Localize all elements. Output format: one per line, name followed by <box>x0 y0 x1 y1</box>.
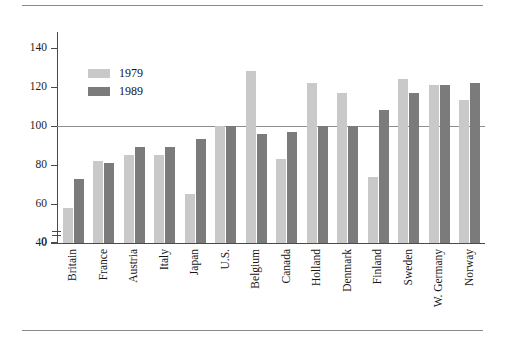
x-label-text: W. Germany <box>434 249 446 307</box>
x-label-text: Austria <box>129 249 141 283</box>
bar-sweden-1989 <box>409 93 419 243</box>
bar-norway-1989 <box>470 83 480 243</box>
x-label-finland: Finland <box>367 247 389 319</box>
bar-austria-1989 <box>135 147 145 243</box>
top-rule <box>22 5 483 6</box>
x-label-text: Italy <box>159 249 171 270</box>
bar-group <box>459 32 480 243</box>
legend-label-1979: 1979 <box>119 66 143 81</box>
bar-britain-1989 <box>74 179 84 243</box>
bar-group <box>398 32 419 243</box>
bar-denmark-1989 <box>348 126 358 243</box>
x-label-text: Finland <box>373 249 385 284</box>
bar-austria-1979 <box>124 155 134 243</box>
bar-group <box>215 32 236 243</box>
bar-holland-1989 <box>318 126 328 243</box>
y-tick-label-100: 100 <box>30 120 47 132</box>
x-label-holland: Holland <box>306 247 328 319</box>
bar-italy-1989 <box>165 147 175 243</box>
legend-swatch-1989 <box>88 87 110 96</box>
bar-u-s-1989 <box>226 126 236 243</box>
bar-group <box>368 32 389 243</box>
x-label-text: Sweden <box>403 249 415 285</box>
chart-figure: 0406080100120140 1979 1989 BritainFrance… <box>0 0 505 342</box>
x-axis-category-labels: BritainFranceAustriaItalyJapanU.S.Belgiu… <box>58 247 485 322</box>
bar-italy-1979 <box>154 155 164 243</box>
x-label-text: Holland <box>312 249 324 286</box>
bar-norway-1979 <box>459 100 469 243</box>
x-label-japan: Japan <box>184 247 206 319</box>
x-label-text: Denmark <box>342 249 354 292</box>
legend-swatch-1979 <box>88 69 110 78</box>
x-label-text: Britain <box>68 249 80 281</box>
x-label-text: Canada <box>281 249 293 283</box>
bar-japan-1989 <box>196 139 206 243</box>
bar-britain-1979 <box>63 208 73 243</box>
bar-group <box>246 32 267 243</box>
y-tick-80 <box>51 165 57 166</box>
bar-denmark-1979 <box>337 93 347 243</box>
y-tick-label-120: 120 <box>30 81 47 93</box>
x-label-text: Belgium <box>251 249 263 289</box>
bar-u-s-1979 <box>215 126 225 243</box>
bar-japan-1979 <box>185 194 195 243</box>
bar-group <box>337 32 358 243</box>
bar-w-germany-1979 <box>429 85 439 243</box>
bar-france-1979 <box>93 161 103 243</box>
bar-w-germany-1989 <box>440 85 450 243</box>
x-label-denmark: Denmark <box>337 247 359 319</box>
bar-sweden-1979 <box>398 79 408 243</box>
bar-finland-1989 <box>379 110 389 243</box>
x-label-italy: Italy <box>154 247 176 319</box>
y-tick-label-140: 140 <box>30 42 47 54</box>
x-label-france: France <box>93 247 115 319</box>
x-label-belgium: Belgium <box>245 247 267 319</box>
y-tick-label-80: 80 <box>36 159 48 171</box>
x-label-text: Norway <box>464 249 476 286</box>
bar-france-1989 <box>104 163 114 243</box>
x-label-sweden: Sweden <box>398 247 420 319</box>
x-label-austria: Austria <box>123 247 145 319</box>
x-label-text: Japan <box>190 249 202 275</box>
bar-series-container <box>58 32 485 243</box>
x-label-text: France <box>98 249 110 280</box>
bar-group <box>429 32 450 243</box>
y-tick-label-40: 40 <box>36 237 48 249</box>
bar-group <box>93 32 114 243</box>
bar-holland-1979 <box>307 83 317 243</box>
legend-entry-1979: 1979 <box>88 66 143 81</box>
bar-canada-1989 <box>287 132 297 243</box>
bar-belgium-1979 <box>246 71 256 243</box>
x-axis-line <box>57 243 485 244</box>
x-label-u-s: U.S. <box>215 247 237 319</box>
bottom-rule <box>22 330 483 331</box>
bar-belgium-1989 <box>257 134 267 243</box>
bar-group <box>154 32 175 243</box>
y-tick-40 <box>51 243 57 244</box>
y-tick-label-60: 60 <box>36 198 48 210</box>
legend-label-1989: 1989 <box>119 84 143 99</box>
bar-group <box>124 32 145 243</box>
legend-entry-1989: 1989 <box>88 84 143 99</box>
bar-canada-1979 <box>276 159 286 243</box>
x-label-norway: Norway <box>459 247 481 319</box>
x-label-w-germany: W. Germany <box>428 247 450 319</box>
y-tick-60 <box>51 204 57 205</box>
x-label-canada: Canada <box>276 247 298 319</box>
y-tick-140 <box>51 48 57 49</box>
chart-legend: 1979 1989 <box>88 66 143 102</box>
y-tick-120 <box>51 87 57 88</box>
bar-group <box>63 32 84 243</box>
bar-group <box>307 32 328 243</box>
bar-group <box>276 32 297 243</box>
x-label-text: U.S. <box>220 249 232 269</box>
bar-finland-1979 <box>368 177 378 243</box>
bar-group <box>185 32 206 243</box>
x-label-britain: Britain <box>62 247 84 319</box>
